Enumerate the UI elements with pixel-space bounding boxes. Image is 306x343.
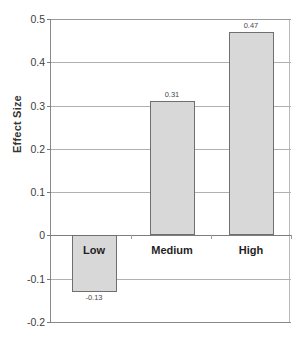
bar-value-label: -0.13 — [64, 293, 124, 302]
category-tick-mark — [291, 235, 292, 239]
category-tick-mark — [211, 235, 212, 239]
category-tick-mark — [131, 235, 132, 239]
plot-area: 0.50.40.30.20.10-0.1-0.2-0.13Low0.31Medi… — [50, 19, 290, 322]
y-axis-tick-label: 0.4 — [30, 56, 51, 68]
y-axis-tick-label: -0.1 — [27, 273, 51, 285]
y-axis-tick-label: 0.5 — [30, 13, 51, 25]
gridline — [51, 19, 291, 20]
y-axis-tick-label: 0.2 — [30, 143, 51, 155]
effect-size-bar-chart: Effect Size 0.50.40.30.20.10-0.1-0.2-0.1… — [0, 0, 306, 343]
bar-high — [229, 32, 274, 235]
y-axis-tick-label: 0 — [39, 229, 51, 241]
bar-value-label: 0.47 — [221, 21, 281, 30]
bar-value-label: 0.31 — [142, 90, 202, 99]
category-label-high: High — [211, 244, 291, 256]
y-axis-tick-label: -0.2 — [27, 316, 51, 328]
y-axis-tick-label: 0.1 — [30, 186, 51, 198]
bar-medium — [150, 101, 195, 235]
category-label-medium: Medium — [132, 244, 212, 256]
y-axis-title: Effect Size — [11, 69, 23, 179]
gridline — [51, 322, 291, 323]
y-axis-tick-label: 0.3 — [30, 100, 51, 112]
category-label-low: Low — [54, 244, 134, 256]
